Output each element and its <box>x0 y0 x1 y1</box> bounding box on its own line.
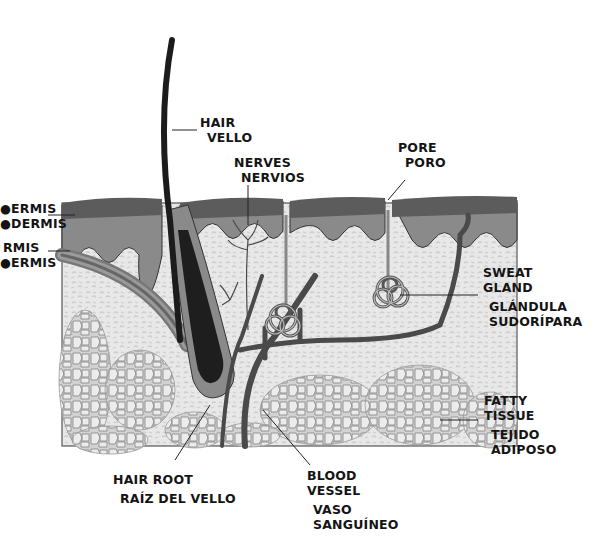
label-left-line3: RMIS <box>3 240 56 255</box>
label-pore-es: PORO <box>405 155 446 170</box>
label-hair-root-es: RAÍZ DEL VELLO <box>120 491 236 506</box>
label-left-line1: ●ERMIS <box>0 201 67 216</box>
label-sweat-gland-en-2: GLAND <box>483 280 582 295</box>
label-sweat-gland-es-2: SUDORÍPARA <box>489 314 582 329</box>
label-blood-vessel-en-2: VESSEL <box>307 483 399 498</box>
label-nerves: NERVES NERVIOS <box>234 155 305 185</box>
label-fatty-tissue: FATTY TISSUE TEJIDO ADIPOSO <box>484 393 557 457</box>
label-blood-vessel-es-2: SANGUÍNEO <box>313 517 399 532</box>
label-pore: PORE PORO <box>398 140 446 170</box>
label-hair-root-en: HAIR ROOT <box>113 472 236 487</box>
label-sweat-gland-en-1: SWEAT <box>483 265 582 280</box>
label-hair-root: HAIR ROOT RAÍZ DEL VELLO <box>113 472 236 506</box>
label-fatty-tissue-es-1: TEJIDO <box>491 427 557 442</box>
label-blood-vessel-en-1: BLOOD <box>307 468 399 483</box>
label-fatty-tissue-en-1: FATTY <box>484 393 557 408</box>
label-blood-vessel: BLOOD VESSEL VASO SANGUÍNEO <box>307 468 399 532</box>
skin-block <box>59 40 517 454</box>
label-left-line4: ●ERMIS <box>0 255 56 270</box>
label-hair-es: VELLO <box>207 130 252 145</box>
label-fatty-tissue-en-2: TISSUE <box>484 408 557 423</box>
label-pore-en: PORE <box>398 140 446 155</box>
label-epidermis-clipped: ●ERMIS ●DERMIS <box>0 201 67 231</box>
label-nerves-en: NERVES <box>234 155 305 170</box>
label-sweat-gland: SWEAT GLAND GLÁNDULA SUDORÍPARA <box>483 265 582 329</box>
label-nerves-es: NERVIOS <box>241 170 305 185</box>
label-hair-en: HAIR <box>200 115 252 130</box>
label-fatty-tissue-es-2: ADIPOSO <box>491 442 557 457</box>
label-blood-vessel-es-1: VASO <box>313 502 399 517</box>
label-hair: HAIR VELLO <box>200 115 252 145</box>
label-sweat-gland-es-1: GLÁNDULA <box>489 299 582 314</box>
label-left-line2: ●DERMIS <box>0 216 67 231</box>
label-dermis-clipped: RMIS ●ERMIS <box>3 240 56 270</box>
